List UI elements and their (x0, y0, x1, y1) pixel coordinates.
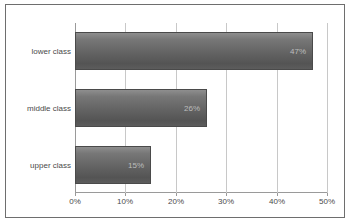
bar-lower-class[interactable]: 47% (75, 32, 313, 70)
value-axis-tick-labels: 0% 10% 20% 30% 40% 50% (75, 195, 328, 213)
category-axis-labels: lower class middle class upper class (14, 23, 71, 193)
chart-screenshot: lower class middle class upper class 47%… (0, 0, 351, 224)
bar-value-lower-class: 47% (290, 47, 306, 56)
chart-frame: lower class middle class upper class 47%… (5, 4, 345, 218)
tick-label-0: 0% (69, 197, 81, 206)
bar-value-upper-class: 15% (128, 161, 144, 170)
tick-label-40: 40% (269, 197, 285, 206)
category-label-upper-class: upper class (30, 161, 71, 170)
tick-label-50: 50% (319, 197, 335, 206)
category-label-middle-class: middle class (27, 104, 71, 113)
tick-label-10: 10% (117, 197, 133, 206)
gridline-50 (327, 23, 328, 193)
plot-area: 47% 26% 15% (75, 23, 328, 193)
category-label-lower-class: lower class (31, 47, 71, 56)
bar-middle-class[interactable]: 26% (75, 89, 207, 127)
category-axis-line (75, 192, 328, 193)
tick-label-30: 30% (218, 197, 234, 206)
bar-upper-class[interactable]: 15% (75, 146, 151, 184)
tick-label-20: 20% (168, 197, 184, 206)
bar-value-middle-class: 26% (184, 104, 200, 113)
